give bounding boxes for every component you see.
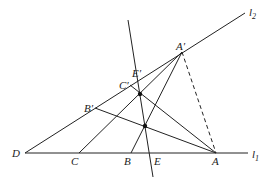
label-a-prime: A′ <box>175 40 186 52</box>
label-l2: l2 <box>249 6 256 21</box>
segment-a-b-prime <box>95 108 216 153</box>
line-l2 <box>25 13 245 153</box>
intersection-point-lower <box>143 124 147 128</box>
label-b: B <box>124 155 131 167</box>
label-a: A <box>211 155 219 167</box>
label-d: D <box>11 147 20 159</box>
label-c-prime: C′ <box>119 79 129 91</box>
label-e-prime: E′ <box>131 67 142 79</box>
label-b-prime: B′ <box>84 102 94 114</box>
segment-a-c-prime <box>130 85 216 153</box>
label-e: E <box>153 155 161 167</box>
segment-a-prime-a-dashed <box>182 52 216 153</box>
segment-a-prime-c <box>79 52 182 153</box>
label-c: C <box>71 155 79 167</box>
projective-geometry-diagram: D C B E A A′ B′ C′ E′ l1 l2 <box>0 0 279 185</box>
label-l1: l1 <box>252 148 259 163</box>
intersection-point-upper <box>138 92 142 96</box>
diagram-svg: D C B E A A′ B′ C′ E′ l1 l2 <box>0 0 279 185</box>
